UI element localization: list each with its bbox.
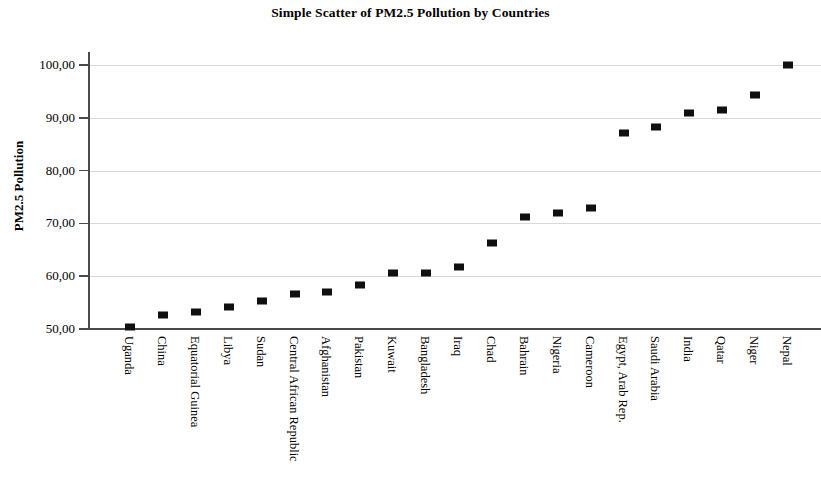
y-axis-tick (79, 117, 88, 119)
x-axis-tick-label: Sudan (254, 336, 267, 367)
y-axis-tick (79, 64, 88, 66)
x-axis-tick-label: Saudi Arabia (649, 336, 662, 401)
x-axis-tick-label: Bahrain (517, 336, 530, 376)
data-point (619, 129, 629, 136)
data-point (520, 214, 530, 221)
gridline (88, 276, 821, 277)
data-point (290, 290, 300, 297)
data-point (388, 269, 398, 276)
y-axis-tick-label: 90,00 (0, 111, 75, 124)
data-point (158, 311, 168, 318)
data-point (224, 303, 234, 310)
x-axis-tick-label: Libya (221, 336, 234, 365)
x-axis-tick-label: Cameroon (583, 336, 596, 388)
x-axis-tick-label: Equatorial Guinea (188, 336, 201, 427)
x-axis-tick-label: Iraq (452, 336, 465, 356)
data-point (355, 282, 365, 289)
chart-title: Simple Scatter of PM2.5 Pollution by Cou… (0, 5, 821, 21)
y-axis-tick (79, 328, 88, 330)
data-point (684, 109, 694, 116)
data-point (257, 298, 267, 305)
y-axis-tick-label: 70,00 (0, 216, 75, 229)
scatter-chart: Simple Scatter of PM2.5 Pollution by Cou… (0, 0, 821, 500)
gridline (88, 65, 821, 66)
x-axis-line (88, 328, 821, 330)
x-axis-tick-label: Afghanistan (320, 336, 333, 397)
data-point (191, 309, 201, 316)
gridline (88, 118, 821, 119)
x-axis-tick-label: China (155, 336, 168, 366)
data-point (125, 324, 135, 331)
x-axis-tick-label: India (682, 336, 695, 362)
x-axis-tick-label: Nepal (781, 336, 794, 366)
x-axis-tick-label: Central African Republic (287, 336, 300, 462)
gridline (88, 171, 821, 172)
data-point (487, 240, 497, 247)
data-point (586, 204, 596, 211)
x-axis-tick-label: Nigeria (550, 336, 563, 373)
data-point (783, 62, 793, 69)
y-axis-tick-label: 100,00 (0, 58, 75, 71)
x-axis-tick-label: Egypt, Arab Rep. (616, 336, 629, 423)
y-axis-tick-label: 80,00 (0, 164, 75, 177)
gridline (88, 223, 821, 224)
y-axis-tick (79, 275, 88, 277)
y-axis-tick-label: 60,00 (0, 269, 75, 282)
y-axis-line (88, 52, 90, 330)
x-axis-tick-label: Pakistan (353, 336, 366, 378)
y-axis-tick (79, 223, 88, 225)
data-point (322, 289, 332, 296)
x-axis-tick-label: Niger (748, 336, 761, 364)
data-point (750, 92, 760, 99)
y-axis-tick (79, 170, 88, 172)
data-point (553, 209, 563, 216)
data-point (454, 263, 464, 270)
y-axis-title: PM2.5 Pollution (11, 116, 27, 256)
data-point (421, 269, 431, 276)
x-axis-tick-label: Bangladesh (419, 336, 432, 394)
x-axis-tick-label: Qatar (715, 336, 728, 364)
y-axis-tick-label: 50,00 (0, 322, 75, 335)
x-axis-tick-label: Chad (484, 336, 497, 362)
x-axis-tick-label: Kuwait (386, 336, 399, 373)
data-point (651, 124, 661, 131)
data-point (717, 107, 727, 114)
x-axis-tick-label: Uganda (123, 336, 136, 375)
